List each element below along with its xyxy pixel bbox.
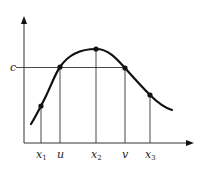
label-u: u [57, 148, 64, 161]
label-c: c [10, 61, 16, 74]
point-x3 [147, 92, 152, 97]
label-x1: x1 [36, 148, 47, 162]
label-x3: x3 [145, 148, 156, 162]
point-x2 [93, 46, 98, 51]
x-axis-arrow-icon [186, 140, 194, 146]
point-v [122, 65, 127, 70]
function-diagram: c x1 u x2 v x3 [0, 0, 206, 172]
point-x1 [38, 103, 43, 108]
label-v: v [122, 148, 129, 161]
label-x2: x2 [91, 148, 102, 162]
function-curve [31, 49, 172, 124]
y-axis-arrow-icon [21, 16, 27, 24]
point-u [57, 64, 62, 69]
